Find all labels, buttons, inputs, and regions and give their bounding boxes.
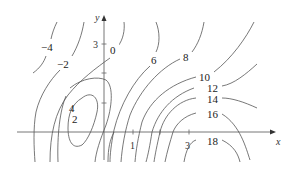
- contour-label-0: 0: [110, 44, 116, 56]
- x-axis-label: x: [275, 136, 281, 147]
- x-tick-label-1: 1: [130, 140, 135, 151]
- contour-labels: −4 −2 0 4 2 6 8 10 12 14 16 18: [40, 40, 221, 147]
- contour-label-8: 8: [183, 51, 189, 63]
- contour-4: [58, 78, 111, 162]
- contour-0: [50, 22, 124, 162]
- y-axis-label: y: [94, 12, 100, 23]
- contour-curves: [33, 22, 257, 162]
- contour-label-16: 16: [207, 108, 219, 120]
- x-axis-arrow-icon: [270, 130, 276, 135]
- contour-14: [154, 98, 257, 162]
- contour-plot: x y 1 3 3 −4 −2: [0, 0, 293, 169]
- contour-label-minus-4: −4: [41, 41, 53, 53]
- y-axis-arrow-icon: [102, 15, 107, 21]
- contour-label-6: 6: [151, 54, 157, 66]
- contour-label-2: 2: [72, 113, 78, 125]
- contour-label-minus-2: −2: [57, 58, 69, 70]
- contour-label-18: 18: [207, 135, 219, 147]
- y-tick-label-3: 3: [93, 39, 98, 50]
- contour-label-14: 14: [207, 93, 219, 105]
